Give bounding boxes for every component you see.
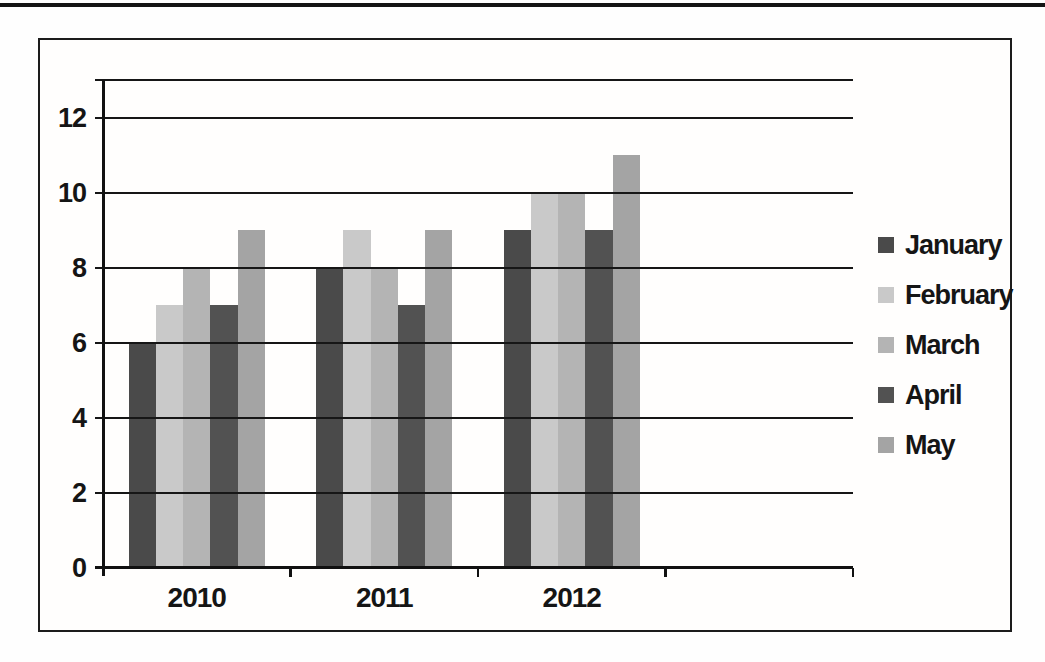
legend-swatch-icon <box>878 287 894 303</box>
x-axis-line <box>95 566 853 569</box>
y-axis-tick-label: 10 <box>26 177 86 209</box>
page-top-rule <box>0 3 1045 7</box>
legend-swatch-icon <box>878 337 894 353</box>
x-axis-tick <box>477 568 480 577</box>
bar-may-2011 <box>425 230 452 568</box>
bar-february-2012 <box>531 193 558 568</box>
gridline <box>95 267 853 269</box>
bar-may-2010 <box>238 230 265 568</box>
bar-april-2012 <box>585 230 612 568</box>
legend-label: May <box>905 430 955 461</box>
legend-swatch-icon <box>878 437 894 453</box>
y-axis-tick-label: 6 <box>26 327 86 359</box>
gridline <box>95 192 853 194</box>
legend-item-january: January <box>878 220 1008 270</box>
page: 024681012 201020112012 JanuaryFebruaryMa… <box>0 0 1045 662</box>
legend-label: March <box>905 330 980 361</box>
legend-label: January <box>905 230 1002 261</box>
bar-january-2012 <box>504 230 531 568</box>
y-axis-tick-label: 4 <box>26 402 86 434</box>
legend-item-march: March <box>878 320 1008 370</box>
legend: JanuaryFebruaryMarchAprilMay <box>878 220 1008 470</box>
y-axis-tick-label: 0 <box>26 552 86 584</box>
y-axis-tick-label: 12 <box>26 102 86 134</box>
legend-swatch-icon <box>878 387 894 403</box>
gridline <box>95 79 853 81</box>
legend-label: February <box>905 280 1013 311</box>
bar-april-2010 <box>210 305 237 568</box>
plot-area <box>103 80 853 568</box>
legend-item-may: May <box>878 420 1008 470</box>
legend-item-february: February <box>878 270 1008 320</box>
y-axis-line <box>102 80 105 576</box>
x-axis-tick <box>852 568 855 577</box>
gridline <box>95 117 853 119</box>
bar-march-2012 <box>558 193 585 568</box>
x-axis-tick <box>289 568 292 577</box>
bar-may-2012 <box>613 155 640 568</box>
y-axis-tick-label: 8 <box>26 252 86 284</box>
category-label-2012: 2012 <box>478 582 666 614</box>
bar-january-2010 <box>129 343 156 568</box>
legend-item-april: April <box>878 370 1008 420</box>
category-label-2010: 2010 <box>103 582 291 614</box>
bar-february-2010 <box>156 305 183 568</box>
gridline <box>95 492 853 494</box>
gridline <box>95 417 853 419</box>
legend-swatch-icon <box>878 237 894 253</box>
legend-label: April <box>905 380 962 411</box>
bar-february-2011 <box>343 230 370 568</box>
bar-april-2011 <box>398 305 425 568</box>
category-label-2011: 2011 <box>291 582 479 614</box>
y-axis-tick-label: 2 <box>26 477 86 509</box>
x-axis-tick <box>664 568 667 577</box>
gridline <box>95 342 853 344</box>
